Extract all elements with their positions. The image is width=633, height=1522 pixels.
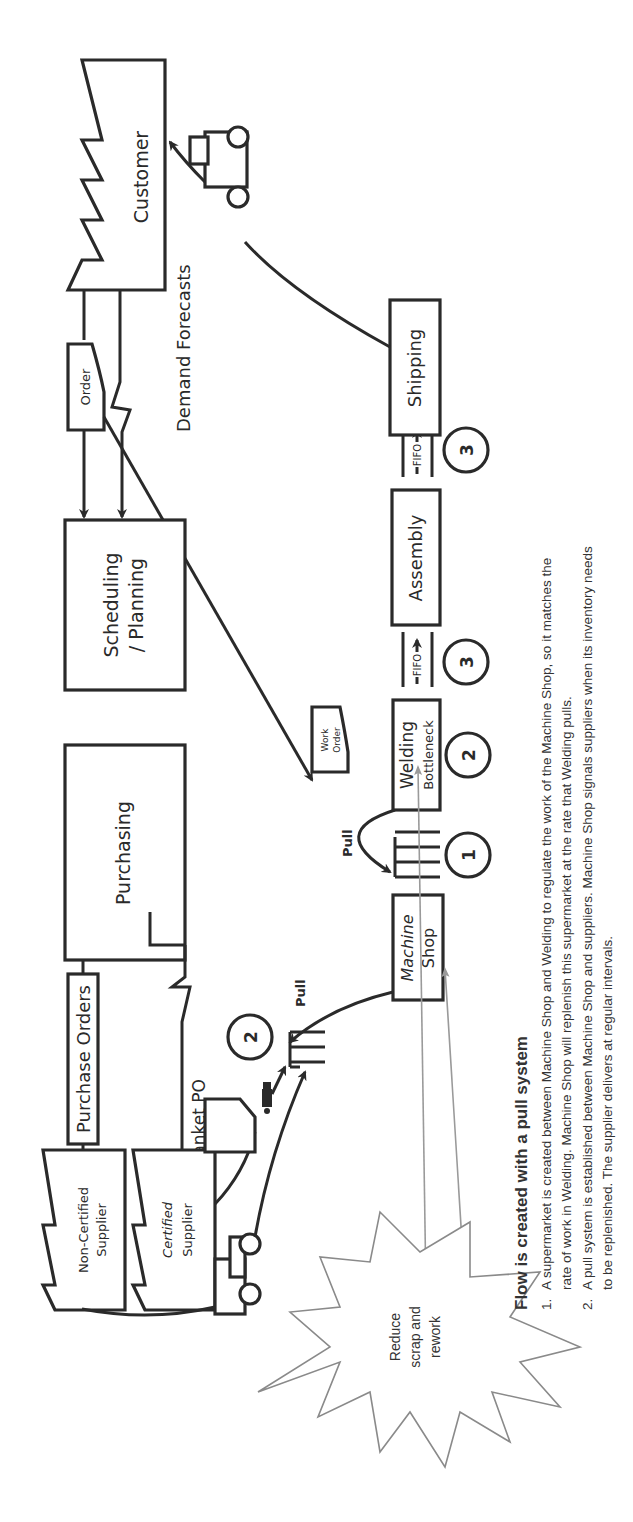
certified-supplier-label: Supplier (180, 1203, 195, 1257)
note-2-line-2: to be replenished. The supplier delivers… (600, 936, 615, 1290)
work-label: Work (320, 728, 330, 752)
purchasing-node: Purchasing (65, 745, 185, 960)
customer-truck-icon (190, 127, 248, 207)
order-document: Order (68, 344, 104, 430)
supplier-label: Supplier (94, 1203, 109, 1257)
bottleneck-label: Bottleneck (421, 720, 436, 790)
purchase-orders-node: Purchase Orders (68, 974, 98, 1144)
value-stream-map: Customer Order Demand Forecasts Scheduli… (0, 0, 633, 1522)
purchase-orders-label: Purchase Orders (73, 985, 94, 1133)
operator-icon (262, 1082, 272, 1114)
certified-label: Certified (160, 1201, 175, 1258)
shipping-node: Shipping (390, 300, 440, 435)
kaizen-line-3: rework (427, 1315, 443, 1358)
pull-label-welding: Pull (340, 829, 355, 857)
assembly-label: Assembly (405, 514, 426, 601)
assembly-node: Assembly (392, 490, 440, 625)
marker-1-label: 1 (459, 849, 479, 861)
marker-2-supplier-label: 2 (241, 1031, 261, 1043)
note-1-line-2: rate of work in Welding. Machine Shop wi… (559, 696, 574, 1290)
notes-title: Flow is created with a pull system (512, 1036, 531, 1310)
order-label: Order (78, 368, 93, 406)
kaizen-line-2: scrap and (407, 1306, 423, 1367)
scheduling-planning-node: Scheduling / Planning (65, 520, 185, 690)
fifo-lane-1: FIFO (403, 632, 432, 687)
fifo-2-label: FIFO (412, 444, 423, 466)
note-2-number: 2. (580, 1299, 595, 1310)
machine-label: Machine (398, 914, 417, 981)
pull-label-machine-shop: Pull (293, 979, 308, 1007)
customer-label: Customer (130, 131, 152, 223)
note-1-line-1: A supermarket is created between Machine… (539, 558, 554, 1290)
marker-3-shipping-label: 3 (457, 444, 477, 456)
kaizen-burst: Reduce scrap and rework (258, 1212, 580, 1467)
shipping-label: Shipping (404, 329, 425, 408)
certified-supplier-node: Certified Supplier (133, 1150, 215, 1310)
kanban-post-icon (205, 1099, 255, 1152)
machine-shop-node: Machine Shop (393, 895, 443, 1000)
non-certified-label: Non-Certified (76, 1187, 91, 1273)
supermarket-icon-1 (395, 832, 440, 877)
order-sub-label: Order (332, 727, 342, 753)
note-1-number: 1. (539, 1299, 554, 1310)
kaizen-line-1: Reduce (387, 1313, 403, 1361)
notes-block: Flow is created with a pull system 1. A … (512, 546, 615, 1310)
non-certified-supplier-node: Non-Certified Supplier (43, 1150, 125, 1310)
welding-node: Welding Bottleneck (393, 700, 440, 810)
shop-label: Shop (419, 928, 438, 968)
work-order-document: Work Order (312, 707, 348, 772)
marker-3-assembly-label: 3 (457, 656, 477, 668)
welding-label: Welding (397, 721, 417, 789)
purchasing-label: Purchasing (112, 801, 134, 905)
demand-forecasts-label: Demand Forecasts (173, 264, 194, 432)
fifo-1-label: FIFO (412, 654, 423, 676)
scheduling-label: Scheduling (100, 552, 122, 657)
planning-label: / Planning (125, 558, 147, 652)
supplier-truck-icon (215, 1234, 260, 1314)
marker-2-welding-label: 2 (459, 749, 479, 761)
note-2-line-1: A pull system is established between Mac… (580, 546, 595, 1290)
customer-node: Customer (68, 60, 165, 290)
